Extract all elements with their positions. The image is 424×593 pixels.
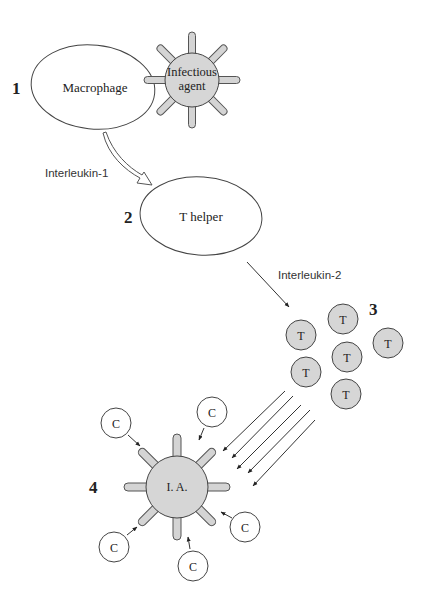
- t-helper-label: T helper: [179, 209, 223, 224]
- t-cell: T: [286, 320, 316, 350]
- complement-label: C: [241, 521, 249, 535]
- t-cell-label: T: [342, 388, 350, 402]
- t-cell-label: T: [297, 329, 305, 343]
- complement-cell: C: [178, 537, 208, 581]
- macrophage-label: Macrophage: [63, 80, 128, 95]
- attack-arrow: [223, 391, 285, 451]
- attack-arrow: [253, 420, 315, 486]
- step-number-1: 1: [12, 79, 21, 98]
- complement-cell: C: [197, 397, 227, 440]
- attack-arrows: [223, 391, 315, 486]
- complement-label: C: [112, 417, 120, 431]
- complement-arrow: [127, 527, 137, 535]
- interleukin-1-arrow: [103, 132, 152, 185]
- t-cell-label: T: [339, 313, 347, 327]
- step-number-2: 2: [124, 208, 133, 227]
- attack-arrow: [232, 396, 293, 458]
- attack-arrow: [237, 405, 301, 469]
- macrophage-cell: Macrophage: [27, 39, 159, 136]
- interleukin-2-label: Interleukin-2: [278, 269, 341, 281]
- infectious-agent-targeted: I. A.: [124, 434, 230, 540]
- step-number-4: 4: [89, 478, 98, 497]
- complement-arrow: [188, 537, 190, 549]
- t-cell-label: T: [343, 351, 351, 365]
- infectious-agent-label-line2: agent: [178, 79, 206, 93]
- infectious-agent-targeted-label: I. A.: [167, 480, 188, 494]
- complement-arrow: [199, 428, 204, 440]
- complement-label: C: [208, 406, 216, 420]
- complement-cell: C: [99, 527, 137, 562]
- complement-label: C: [110, 541, 118, 555]
- t-cell: T: [332, 342, 362, 372]
- complement-label: C: [189, 560, 197, 574]
- infectious-agent: Infectious agent: [144, 32, 240, 128]
- complement-cell: C: [101, 408, 140, 446]
- complement-arrow: [221, 512, 232, 518]
- t-cell-label: T: [384, 337, 392, 351]
- t-helper-cell: T helper: [137, 173, 264, 259]
- t-cell: T: [331, 379, 361, 409]
- hollow-arrow-icon: [103, 132, 152, 185]
- t-cell: T: [328, 304, 358, 334]
- step-number-3: 3: [369, 300, 378, 319]
- t-cell: T: [373, 328, 403, 358]
- complement-cell: C: [221, 512, 260, 542]
- attack-arrow: [248, 410, 310, 473]
- t-cell: T: [291, 357, 321, 387]
- t-cell-label: T: [302, 366, 310, 380]
- t-cell-cluster: T T T T T T: [286, 304, 403, 409]
- complement-arrow: [128, 435, 140, 446]
- infectious-agent-label-line1: Infectious: [167, 65, 217, 79]
- immune-response-diagram: 1 Macrophage Infectious agent Interleuki…: [0, 0, 424, 593]
- interleukin-1-label: Interleukin-1: [45, 167, 108, 179]
